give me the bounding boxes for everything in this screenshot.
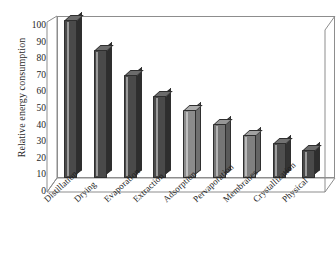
bar-highlight bbox=[186, 112, 188, 176]
bars-container bbox=[0, 0, 336, 260]
bar bbox=[183, 110, 196, 178]
bar-side-face bbox=[77, 12, 82, 174]
bar-highlight bbox=[245, 137, 247, 176]
bar bbox=[64, 20, 77, 178]
bar-front-face bbox=[183, 110, 196, 178]
bar-highlight bbox=[305, 152, 307, 176]
bar-front-face bbox=[64, 20, 77, 178]
bar-front-face bbox=[124, 75, 137, 178]
bar bbox=[94, 50, 107, 178]
bar-highlight bbox=[96, 52, 98, 176]
bar-side-face bbox=[137, 67, 142, 174]
bar-side-face bbox=[166, 88, 171, 174]
bar-side-face bbox=[107, 42, 112, 174]
bar-chart: Relative energy consumption 010203040506… bbox=[0, 0, 336, 260]
bar-highlight bbox=[67, 22, 69, 176]
bar-front-face bbox=[153, 96, 166, 178]
bar-highlight bbox=[156, 98, 158, 176]
bar-front-face bbox=[94, 50, 107, 178]
bar bbox=[153, 96, 166, 178]
bar-side-face bbox=[196, 102, 201, 174]
bar-highlight bbox=[216, 126, 218, 176]
bar-front-face bbox=[302, 150, 315, 178]
bar bbox=[124, 75, 137, 178]
bar-highlight bbox=[126, 77, 128, 176]
bar bbox=[302, 150, 315, 178]
